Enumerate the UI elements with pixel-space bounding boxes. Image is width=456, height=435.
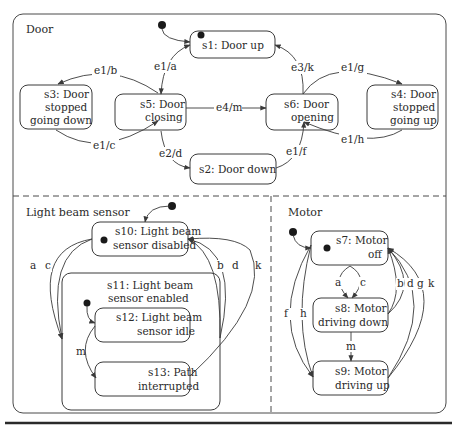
initial-transition-motor: [293, 235, 311, 248]
svg-text:driving up: driving up: [335, 379, 390, 391]
svg-text:e1/h: e1/h: [341, 133, 364, 145]
svg-text:e4/m: e4/m: [216, 101, 242, 113]
svg-text:k: k: [255, 259, 262, 271]
initial-state-icon: [84, 300, 91, 307]
svg-text:opening: opening: [291, 111, 334, 123]
svg-text:s2: Door down: s2: Door down: [199, 163, 276, 175]
state-s6[interactable]: s6: Door opening: [266, 94, 338, 130]
svg-text:e3/k: e3/k: [291, 61, 314, 73]
svg-text:m: m: [76, 345, 86, 357]
svg-text:s9: Motor: s9: Motor: [335, 365, 388, 377]
svg-text:s12: Light beam: s12: Light beam: [116, 311, 202, 323]
transition-k-s9-s7: [388, 248, 424, 378]
region-title-light-beam-sensor: Light beam sensor: [26, 206, 130, 219]
svg-text:s7: Motor: s7: Motor: [336, 234, 389, 246]
state-s10[interactable]: s10: Light beam sensor disabled: [92, 222, 201, 256]
history-dot-icon: [101, 237, 108, 244]
history-dot-icon: [324, 245, 331, 252]
svg-text:s11: Light beam: s11: Light beam: [107, 279, 193, 291]
svg-text:e1/b: e1/b: [94, 64, 117, 76]
initial-state-icon: [158, 21, 166, 29]
state-s3[interactable]: s3: Door stopped going down: [20, 85, 92, 129]
state-s1[interactable]: s1: Door up: [190, 31, 275, 58]
svg-text:k: k: [428, 277, 435, 289]
svg-text:s6: Door: s6: Door: [284, 98, 330, 110]
state-s9[interactable]: s9: Motor driving up: [313, 361, 390, 395]
svg-text:g: g: [417, 277, 424, 289]
state-s13[interactable]: s13: Path interrupted: [95, 362, 200, 396]
svg-text:h: h: [300, 307, 307, 319]
svg-text:closing: closing: [145, 111, 183, 123]
svg-text:a: a: [335, 276, 341, 288]
initial-transition-door: [162, 29, 190, 42]
region-title-motor: Motor: [288, 206, 323, 219]
svg-text:e1/g: e1/g: [341, 61, 364, 73]
svg-text:interrupted: interrupted: [138, 380, 200, 392]
svg-text:s4: Door: s4: Door: [391, 88, 437, 100]
svg-text:s8: Motor: s8: Motor: [335, 302, 388, 314]
svg-text:e1/f: e1/f: [286, 145, 307, 157]
initial-state-icon: [289, 228, 297, 236]
svg-text:b: b: [217, 259, 224, 271]
svg-text:driving down: driving down: [318, 316, 388, 328]
svg-text:e1/a: e1/a: [154, 60, 177, 72]
transition-c-s7-s8: [350, 266, 361, 298]
region-title-door: Door: [26, 23, 54, 36]
state-s5[interactable]: s5: Door closing: [115, 94, 186, 130]
svg-text:e2/d: e2/d: [159, 147, 182, 159]
svg-text:d: d: [232, 259, 239, 271]
svg-text:b: b: [397, 277, 404, 289]
statechart-diagram: Door s1: Door up s5: Door closing s3: Do…: [0, 0, 456, 435]
svg-text:stopped: stopped: [45, 101, 88, 113]
initial-transition-sensor: [145, 206, 170, 222]
svg-text:s5: Door: s5: Door: [140, 98, 186, 110]
svg-text:c: c: [360, 276, 366, 288]
state-s2[interactable]: s2: Door down: [190, 154, 276, 184]
svg-text:s10: Light beam: s10: Light beam: [115, 225, 201, 237]
svg-text:d: d: [407, 277, 414, 289]
svg-text:stopped: stopped: [393, 101, 436, 113]
svg-text:off: off: [368, 248, 383, 260]
state-s8[interactable]: s8: Motor driving down: [313, 298, 388, 332]
state-s12[interactable]: s12: Light beam sensor idle: [95, 308, 202, 342]
svg-text:sensor enabled: sensor enabled: [108, 292, 189, 304]
svg-text:sensor idle: sensor idle: [137, 325, 195, 337]
state-s4[interactable]: s4: Door stopped going up: [367, 85, 438, 129]
svg-text:sensor disabled: sensor disabled: [113, 239, 196, 251]
history-dot-icon: [198, 32, 205, 39]
svg-text:m: m: [346, 340, 356, 352]
svg-text:going down: going down: [30, 114, 92, 126]
svg-text:a: a: [30, 259, 36, 271]
svg-text:c: c: [45, 259, 51, 271]
svg-text:s1: Door up: s1: Door up: [202, 39, 264, 51]
svg-text:s3: Door: s3: Door: [44, 88, 90, 100]
svg-text:going up: going up: [390, 114, 437, 126]
state-s7[interactable]: s7: Motor off: [311, 231, 389, 265]
svg-text:e1/c: e1/c: [93, 139, 115, 151]
